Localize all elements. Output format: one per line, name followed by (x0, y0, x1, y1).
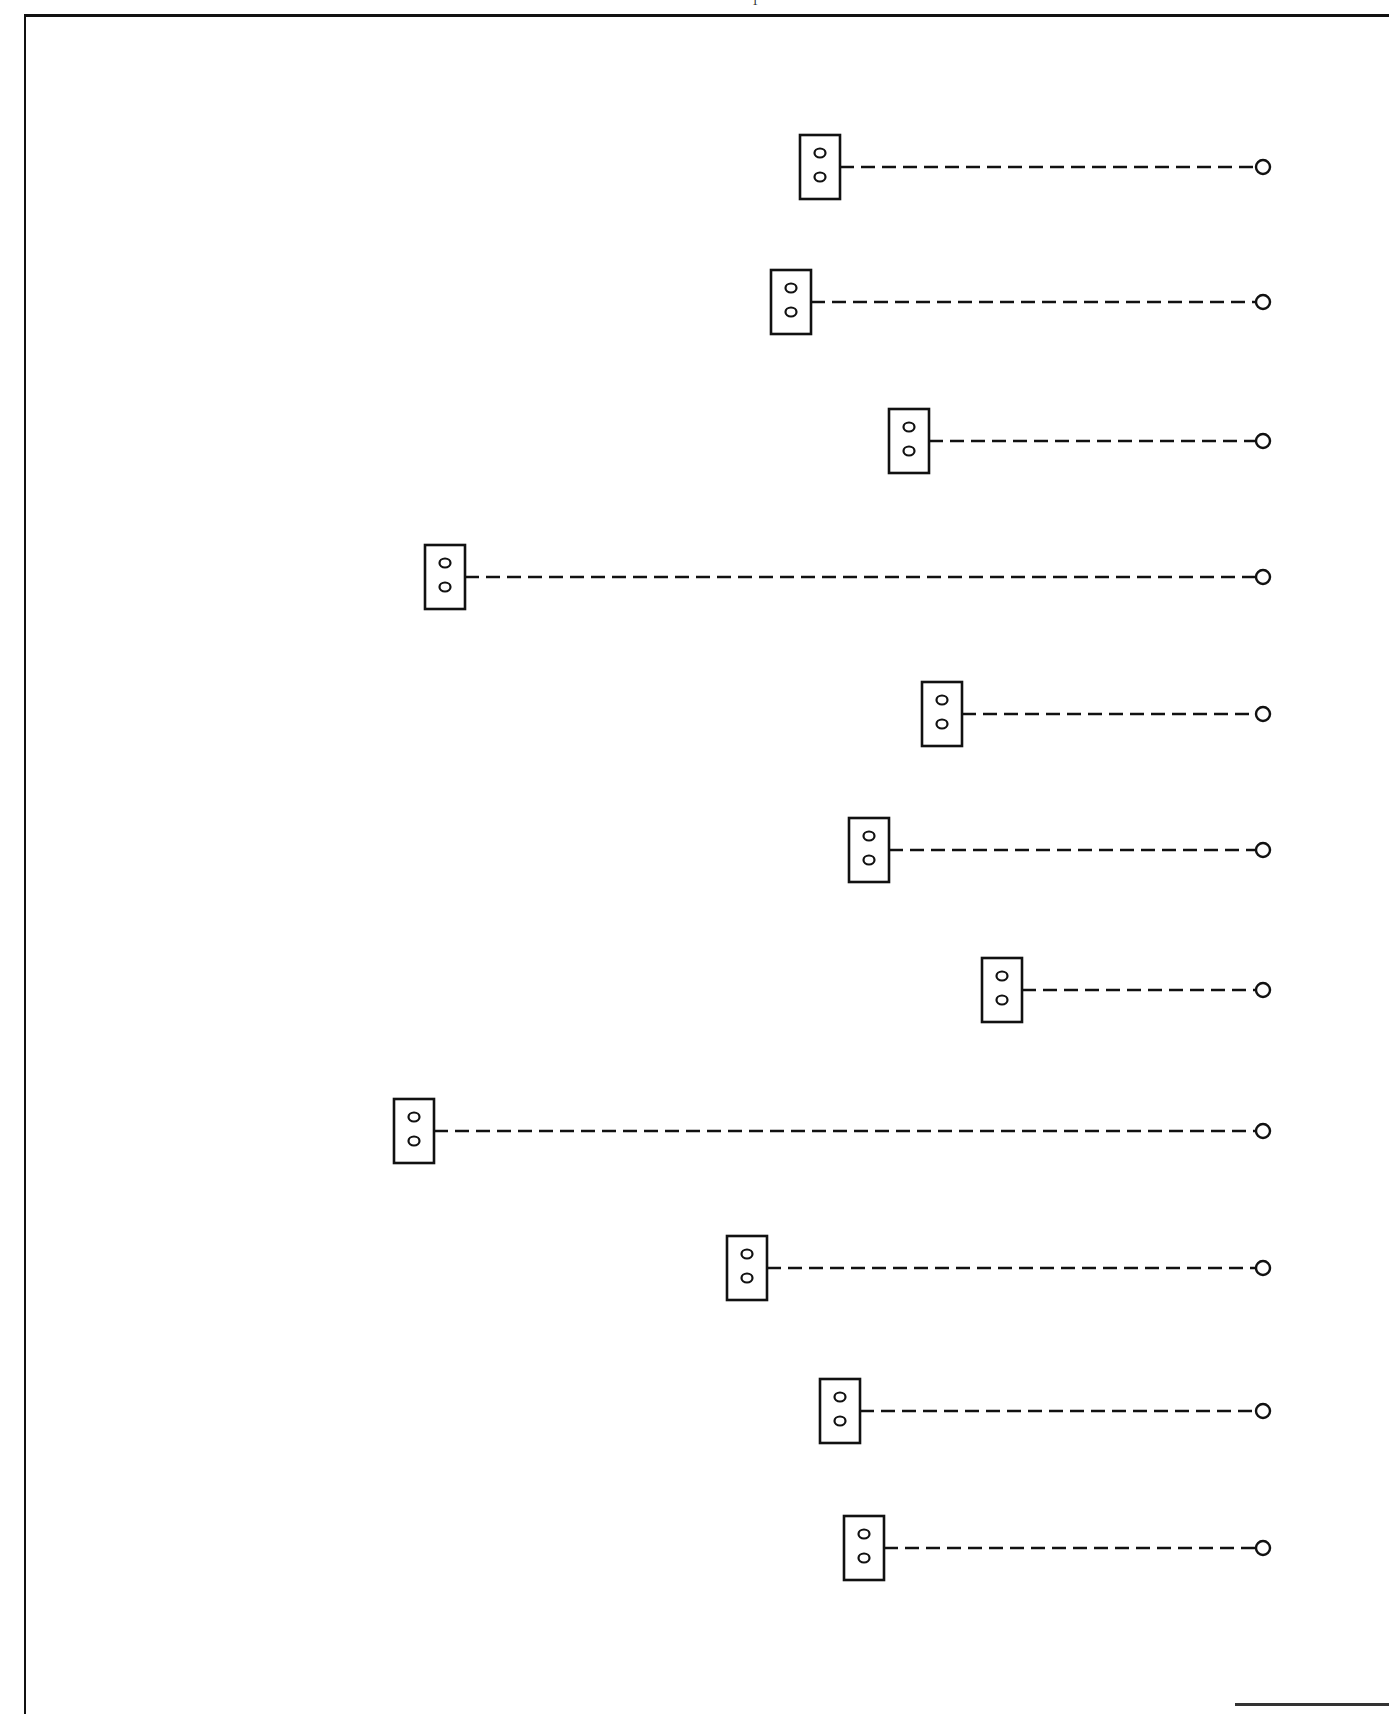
open-circle-terminal-icon (1256, 160, 1270, 174)
diagram-row (889, 409, 1270, 473)
open-circle-terminal-icon (1256, 434, 1270, 448)
two-hole-socket-box-icon (771, 270, 811, 334)
open-circle-terminal-icon (1256, 1124, 1270, 1138)
diagram-row (771, 270, 1270, 334)
socket-box-outline (820, 1379, 860, 1443)
open-circle-terminal-icon (1256, 843, 1270, 857)
diagram-row (394, 1099, 1270, 1163)
two-hole-socket-box-icon (889, 409, 929, 473)
socket-box-outline (394, 1099, 434, 1163)
open-circle-terminal-icon (1256, 1261, 1270, 1275)
socket-box-outline (727, 1236, 767, 1300)
two-hole-socket-box-icon (394, 1099, 434, 1163)
socket-box-outline (771, 270, 811, 334)
diagram-row (844, 1516, 1270, 1580)
socket-box-outline (982, 958, 1022, 1022)
open-circle-terminal-icon (1256, 295, 1270, 309)
diagram-row (800, 135, 1270, 199)
two-hole-socket-box-icon (844, 1516, 884, 1580)
socket-box-outline (889, 409, 929, 473)
two-hole-socket-box-icon (982, 958, 1022, 1022)
diagram-row (982, 958, 1270, 1022)
open-circle-terminal-icon (1256, 707, 1270, 721)
socket-box-outline (425, 545, 465, 609)
socket-box-outline (922, 682, 962, 746)
open-circle-terminal-icon (1256, 1541, 1270, 1555)
diagram-row (849, 818, 1270, 882)
socket-box-outline (844, 1516, 884, 1580)
socket-box-outline (800, 135, 840, 199)
open-circle-terminal-icon (1256, 1404, 1270, 1418)
two-hole-socket-box-icon (800, 135, 840, 199)
socket-box-outline (849, 818, 889, 882)
two-hole-socket-box-icon (727, 1236, 767, 1300)
two-hole-socket-box-icon (922, 682, 962, 746)
open-circle-terminal-icon (1256, 983, 1270, 997)
diagram-row (820, 1379, 1270, 1443)
open-circle-terminal-icon (1256, 570, 1270, 584)
diagram-row (922, 682, 1270, 746)
diagram-row (727, 1236, 1270, 1300)
two-hole-socket-box-icon (849, 818, 889, 882)
two-hole-socket-box-icon (820, 1379, 860, 1443)
diagram-row (425, 545, 1270, 609)
two-hole-socket-box-icon (425, 545, 465, 609)
